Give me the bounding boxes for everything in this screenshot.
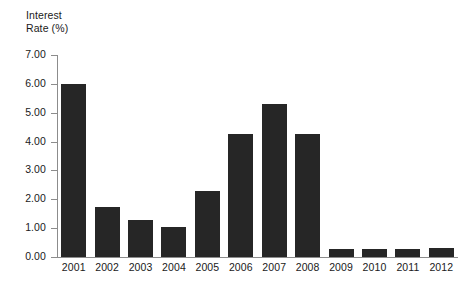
bar-slot xyxy=(124,73,157,257)
y-axis-tick xyxy=(51,55,57,56)
bar-2012[interactable] xyxy=(429,248,454,257)
bar-2003[interactable] xyxy=(128,220,153,258)
bar-2009[interactable] xyxy=(329,249,354,257)
bar-2010[interactable] xyxy=(362,249,387,257)
y-axis-tick-label: 2.00 xyxy=(0,193,46,204)
bar-slot xyxy=(391,73,424,257)
bar-2011[interactable] xyxy=(395,249,420,257)
bar-2001[interactable] xyxy=(61,84,86,257)
bar-slot xyxy=(425,73,458,257)
bar-slot xyxy=(258,73,291,257)
bars-container xyxy=(57,73,458,257)
bar-2004[interactable] xyxy=(161,227,186,257)
y-axis-tick-label: 4.00 xyxy=(0,136,46,147)
interest-rate-bar-chart: Interest Rate (%) 7.006.005.004.003.002.… xyxy=(0,0,476,285)
bar-2006[interactable] xyxy=(228,134,253,257)
y-axis-tick-label: 6.00 xyxy=(0,78,46,89)
bar-slot xyxy=(57,73,90,257)
bar-slot xyxy=(224,73,257,257)
bar-slot xyxy=(291,73,324,257)
y-axis-title: Interest Rate (%) xyxy=(26,9,68,35)
bar-slot xyxy=(90,73,123,257)
x-axis-line xyxy=(57,257,458,258)
bar-2008[interactable] xyxy=(295,134,320,257)
bar-2005[interactable] xyxy=(195,191,220,257)
y-axis-tick-label: 0.00 xyxy=(0,251,46,262)
y-axis-tick-label: 5.00 xyxy=(0,107,46,118)
bar-slot xyxy=(358,73,391,257)
bar-slot xyxy=(324,73,357,257)
y-axis-tick xyxy=(51,257,57,258)
bar-2007[interactable] xyxy=(262,104,287,257)
x-axis-label-2012: 2012 xyxy=(419,262,463,273)
bar-slot xyxy=(157,73,190,257)
bar-2002[interactable] xyxy=(95,207,120,258)
y-axis-tick-label: 7.00 xyxy=(0,49,46,60)
bar-slot xyxy=(191,73,224,257)
y-axis-tick-label: 3.00 xyxy=(0,164,46,175)
y-axis-tick-label: 1.00 xyxy=(0,222,46,233)
